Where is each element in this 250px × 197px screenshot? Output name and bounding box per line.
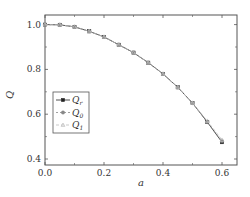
y-axis-label: Q xyxy=(4,91,15,99)
x-tick-label: 0.4 xyxy=(156,168,171,178)
y-tick-label: 0.6 xyxy=(27,109,42,119)
line-chart: 0.00.20.40.60.40.60.81.0 QrQ0Q1 a Q xyxy=(0,0,250,197)
y-tick-label: 0.4 xyxy=(27,154,42,164)
x-tick-label: 0.0 xyxy=(38,168,53,178)
plot-frame xyxy=(45,15,237,165)
legend-label-subscript: 0 xyxy=(79,112,83,119)
legend: QrQ0Q1 xyxy=(53,92,89,133)
legend-box xyxy=(53,92,89,133)
x-tick-label: 0.2 xyxy=(97,168,111,178)
x-axis-label: a xyxy=(138,177,144,188)
y-tick-label: 1.0 xyxy=(27,20,42,30)
legend-label-subscript: 1 xyxy=(79,124,83,131)
y-tick-label: 0.8 xyxy=(27,64,42,74)
x-tick-label: 0.6 xyxy=(215,168,230,178)
legend-marker-icon xyxy=(61,111,64,114)
legend-marker-icon xyxy=(61,98,64,101)
